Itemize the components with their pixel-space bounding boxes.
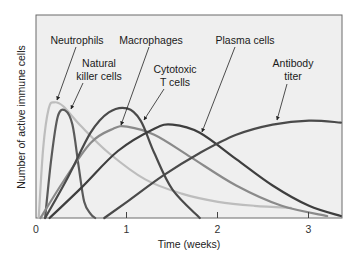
x-tick-1: 1 xyxy=(124,223,130,235)
label-antibody-line2: titer xyxy=(284,70,302,82)
y-axis-label: Number of active immune cells xyxy=(15,45,27,189)
label-cytotoxic-line1: Cytotoxic xyxy=(153,63,196,75)
label-antibody-line1: Antibody xyxy=(273,57,315,69)
label-macrophages: Macrophages xyxy=(119,34,183,46)
x-tick-0: 0 xyxy=(33,223,39,235)
label-plasma-cells: Plasma cells xyxy=(216,34,275,46)
label-nk-line1: Natural xyxy=(82,57,116,69)
label-neutrophils: Neutrophils xyxy=(50,34,103,46)
label-cytotoxic-line2: T cells xyxy=(160,76,190,88)
label-nk-line2: killer cells xyxy=(76,70,122,82)
immune-response-chart: 0 1 2 3 Time (weeks) Number of active im… xyxy=(0,0,360,260)
x-axis-label: Time (weeks) xyxy=(158,238,221,250)
x-tick-3: 3 xyxy=(306,223,312,235)
x-tick-2: 2 xyxy=(215,223,221,235)
